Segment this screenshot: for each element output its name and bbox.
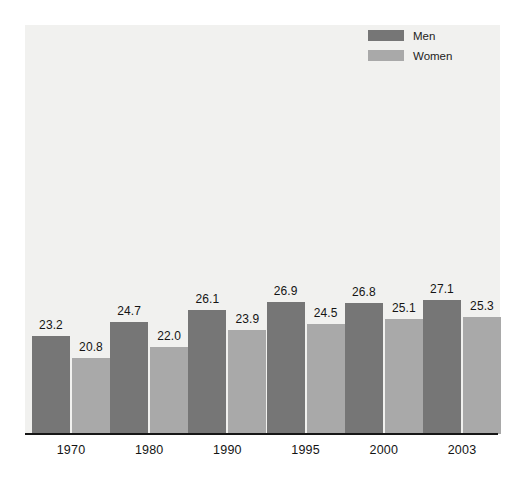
chart-legend: Men Women <box>368 27 478 67</box>
legend-swatch-men-icon <box>368 30 404 41</box>
bar-men-2003[interactable] <box>423 300 461 434</box>
bar-value-label-women-2000: 25.1 <box>379 301 429 315</box>
bar-women-1970[interactable] <box>72 358 110 434</box>
legend-item-men[interactable]: Men <box>368 27 478 44</box>
bar-value-label-men-1990: 26.1 <box>182 292 232 306</box>
x-tick-label-2000: 2000 <box>344 443 424 457</box>
bar-value-label-men-1970: 23.2 <box>26 318 76 332</box>
x-axis-tick-labels: 197019801990199520002003 <box>0 443 525 467</box>
bar-value-label-women-2003: 25.3 <box>457 299 507 313</box>
bar-women-2003[interactable] <box>463 317 501 434</box>
x-axis-line <box>25 433 498 435</box>
legend-label-men: Men <box>413 30 435 42</box>
bar-value-label-men-2000: 26.8 <box>339 285 389 299</box>
bar-value-label-women-1970: 20.8 <box>66 340 116 354</box>
bar-value-label-women-1990: 23.9 <box>222 312 272 326</box>
bar-value-label-women-1980: 22.0 <box>144 329 194 343</box>
bar-value-label-women-1995: 24.5 <box>301 306 351 320</box>
bar-men-1970[interactable] <box>32 336 70 434</box>
bar-value-label-men-1980: 24.7 <box>104 304 154 318</box>
x-tick-label-1970: 1970 <box>31 443 111 457</box>
bar-value-label-men-1995: 26.9 <box>261 284 311 298</box>
bar-women-1995[interactable] <box>307 324 345 434</box>
bar-women-2000[interactable] <box>385 319 423 434</box>
legend-swatch-women-icon <box>368 50 404 61</box>
bar-value-label-men-2003: 27.1 <box>417 282 467 296</box>
x-tick-label-1980: 1980 <box>109 443 189 457</box>
legend-item-women[interactable]: Women <box>368 47 478 64</box>
chart-container: Men Women 23.224.726.126.926.827.120.822… <box>0 0 525 481</box>
x-tick-label-1995: 1995 <box>266 443 346 457</box>
bar-women-1990[interactable] <box>228 330 266 434</box>
bars-layer: 23.224.726.126.926.827.120.822.023.924.5… <box>0 0 525 481</box>
x-tick-label-2003: 2003 <box>422 443 502 457</box>
bar-women-1980[interactable] <box>150 347 188 434</box>
legend-label-women: Women <box>413 50 452 62</box>
x-tick-label-1990: 1990 <box>187 443 267 457</box>
bar-men-1990[interactable] <box>188 310 226 434</box>
bar-men-2000[interactable] <box>345 303 383 434</box>
bar-men-1980[interactable] <box>110 322 148 434</box>
